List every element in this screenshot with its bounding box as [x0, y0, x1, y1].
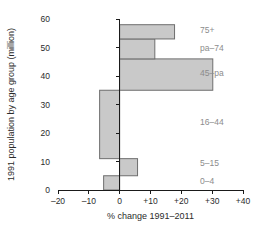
y-tick-label-50: 50	[41, 43, 51, 53]
x-axis-title: % change 1991–2011	[107, 211, 194, 221]
y-tick-label-60: 60	[41, 14, 51, 24]
x-tick-label-40: +40	[236, 196, 251, 206]
x-tick-label--10: –10	[82, 196, 96, 206]
y-tick-label-30: 30	[41, 100, 51, 110]
bar-pa-74	[120, 39, 155, 59]
category-label-pa-74: pa–74	[200, 43, 224, 53]
x-tick-label-30: +30	[205, 196, 220, 206]
category-label-16-44: 16–44	[200, 117, 224, 127]
chart-canvas: 0102030405060–20–100+10+20+30+40% change…	[0, 0, 253, 231]
x-tick-label--20: –20	[51, 196, 65, 206]
bar-16-44	[100, 90, 120, 158]
bar-5-15	[120, 159, 138, 176]
category-label-45-pa: 45–pa	[200, 68, 224, 78]
category-label-5-15: 5–15	[200, 158, 219, 168]
bar-75-	[120, 25, 175, 39]
y-tick-label-20: 20	[41, 128, 51, 138]
x-tick-label-20: +20	[174, 196, 189, 206]
y-tick-label-0: 0	[45, 185, 50, 195]
y-tick-label-10: 10	[41, 157, 51, 167]
population-change-chart: 0102030405060–20–100+10+20+30+40% change…	[0, 0, 253, 231]
y-tick-label-40: 40	[41, 71, 51, 81]
y-axis-title: 1991 population by age group (million)	[6, 28, 16, 181]
bar-45-pa	[120, 59, 213, 90]
x-tick-label-10: +10	[143, 196, 158, 206]
x-tick-label-0: 0	[117, 196, 122, 206]
category-label-0-4: 0–4	[200, 176, 214, 186]
category-label-75-: 75+	[200, 25, 214, 35]
bar-0-4	[104, 176, 120, 190]
